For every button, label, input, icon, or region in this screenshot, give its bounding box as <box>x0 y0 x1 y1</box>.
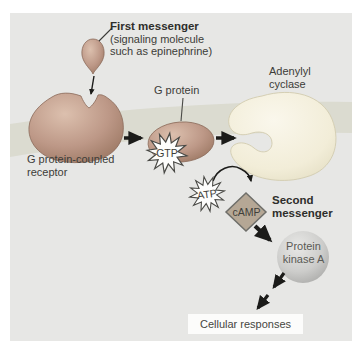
adenylyl-cyclase-line2: cyclase <box>269 78 311 91</box>
gpcr-line1: G protein-coupled <box>27 153 114 166</box>
first-messenger-title: First messenger <box>110 20 212 33</box>
second-messenger-line1: Second <box>272 194 333 207</box>
signal-molecule-shape <box>82 39 104 74</box>
cascade-arrow-2 <box>258 295 268 308</box>
pka-line1: Protein <box>277 240 330 253</box>
gpcr-label: G protein-coupled receptor <box>27 153 114 179</box>
camp-label: cAMP <box>226 206 267 219</box>
cascade-arrow-1 <box>274 273 284 287</box>
first-messenger-sub1: (signaling molecule <box>110 33 212 46</box>
adenylyl-cyclase-shape <box>229 92 336 180</box>
first-messenger-sub2: such as epinephrine) <box>110 45 212 58</box>
gpcr-line2: receptor <box>27 166 114 179</box>
camp-to-pka-arrow <box>255 226 270 240</box>
adenylyl-cyclase-label: Adenylyl cyclase <box>269 65 311 90</box>
cellular-responses-box: Cellular responses <box>188 314 303 334</box>
pka-line2: kinase A <box>277 253 330 266</box>
second-messenger-line2: messenger <box>272 207 333 220</box>
adenylyl-cyclase-line1: Adenylyl <box>269 65 311 78</box>
binding-arrow <box>91 76 94 94</box>
g-protein-label: G protein <box>154 84 199 97</box>
second-messenger-label: Second messenger <box>272 194 333 220</box>
pka-label: Protein kinase A <box>277 240 330 265</box>
gtp-label: GTP <box>149 147 185 160</box>
first-messenger-label: First messenger (signaling molecule such… <box>110 20 212 58</box>
